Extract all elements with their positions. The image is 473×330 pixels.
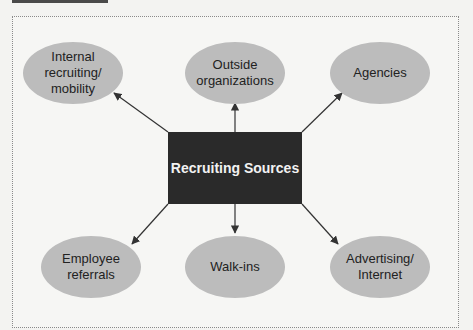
node-walk-ins: Walk-ins: [185, 236, 285, 298]
arrow-to-agencies: [302, 93, 342, 132]
arrow-to-internal: [114, 93, 168, 132]
node-label: Walk-ins: [210, 259, 259, 275]
node-label: Advertising/ Internet: [346, 251, 414, 283]
node-internal-recruiting: Internal recruiting/ mobility: [23, 42, 123, 104]
node-label: Internal recruiting/ mobility: [44, 49, 101, 97]
node-label: Employee referrals: [62, 251, 120, 283]
node-label: Agencies: [353, 65, 406, 81]
center-node-recruiting-sources: Recruiting Sources: [168, 132, 302, 204]
arrow-to-advertising: [302, 204, 338, 244]
center-label: Recruiting Sources: [171, 160, 299, 176]
node-employee-referrals: Employee referrals: [41, 236, 141, 298]
node-label: Outside organizations: [196, 57, 273, 89]
node-outside-organizations: Outside organizations: [185, 42, 285, 104]
node-agencies: Agencies: [330, 42, 430, 104]
arrow-to-referrals: [132, 204, 168, 244]
node-advertising-internet: Advertising/ Internet: [330, 236, 430, 298]
